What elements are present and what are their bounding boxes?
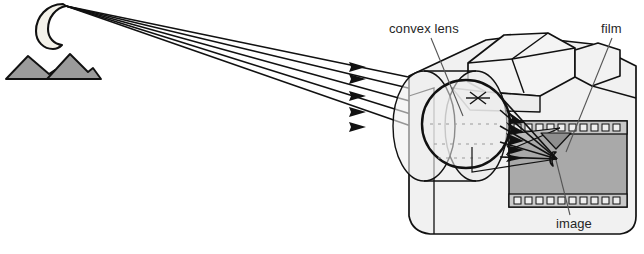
label-film: film bbox=[601, 21, 622, 36]
mountain-range-icon bbox=[6, 54, 101, 79]
label-image: image bbox=[556, 216, 592, 231]
ray-arrowhead-group-incoming bbox=[349, 62, 366, 132]
diagram-illustration bbox=[0, 0, 644, 254]
label-convex-lens: convex lens bbox=[389, 21, 459, 36]
convex-lens-element bbox=[422, 80, 510, 168]
crescent-moon-icon bbox=[36, 4, 66, 49]
optics-diagram-canvas: convex lens film image bbox=[0, 0, 644, 254]
